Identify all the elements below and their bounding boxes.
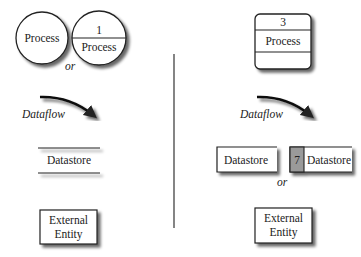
external-entity-line1-left: External [40,213,97,227]
datastore-simple-label: Datastore [217,153,275,167]
process-numbered-label: Process [72,40,126,54]
datastore-label-left: Datastore [38,153,100,167]
process-label-right: Process [255,34,311,48]
datastore-numbered-label: Datastore [304,153,354,167]
external-entity-line1-right: External [255,211,312,225]
process-circle-numbered [72,11,126,65]
external-entity-line2-right: Entity [255,225,312,239]
dataflow-label-left: Dataflow [22,107,70,121]
process-simple-label: Process [16,31,68,45]
or-label-process: or [62,59,78,73]
dataflow-label-right: Dataflow [240,107,288,121]
process-number: 1 [72,23,126,37]
datastore-id: 7 [290,153,304,167]
external-entity-line2-left: Entity [40,227,97,241]
process-id-right: 3 [255,15,311,29]
or-label-datastore: or [274,175,290,189]
